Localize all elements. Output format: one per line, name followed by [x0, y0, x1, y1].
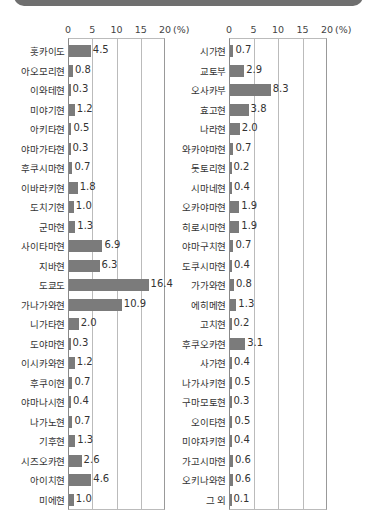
bar-row: 도쿠시마현0.4 — [230, 256, 326, 276]
bar-row: 에히메현1.3 — [230, 295, 326, 315]
category-label: 도쿄도 — [39, 278, 65, 292]
value-label: 4.5 — [91, 44, 109, 55]
value-label: 0.3 — [71, 337, 89, 348]
plot-area: 홋카이도4.5아오모리현0.8이와테현0.3미야기현1.2아키타현0.5야마가타… — [68, 38, 165, 510]
bar-row: 돗토리현0.2 — [230, 158, 326, 178]
value-label: 1.2 — [75, 356, 93, 367]
value-label: 10.9 — [122, 298, 146, 309]
value-label: 2.9 — [244, 64, 262, 75]
category-label: 사이타마현 — [21, 239, 65, 253]
unit-label: (%) — [335, 24, 351, 35]
category-label: 미야자키현 — [182, 434, 226, 448]
category-label: 가가와현 — [191, 278, 226, 292]
bar-row: 이와테현0.3 — [69, 80, 164, 100]
category-label: 오키나와현 — [182, 473, 226, 487]
plot-area: 시가현0.7교토부2.9오사카부8.3효고현3.8나라현2.0와카야마현0.7돗… — [229, 38, 327, 510]
category-label: 돗토리현 — [191, 161, 226, 175]
category-label: 이바라키현 — [21, 181, 65, 195]
bar-row: 가나가와현10.9 — [69, 295, 164, 315]
bar-row: 구마모토현0.3 — [230, 392, 326, 412]
value-label: 0.7 — [72, 376, 90, 387]
header-bar — [14, 0, 363, 6]
category-label: 니가타현 — [30, 317, 65, 331]
value-label: 1.9 — [239, 220, 257, 231]
category-label: 야마가타현 — [21, 142, 65, 156]
bar-row: 히로시마현1.9 — [230, 217, 326, 237]
value-label: 1.3 — [236, 298, 254, 309]
bar — [69, 182, 78, 194]
category-label: 나가노현 — [30, 415, 65, 429]
value-label: 1.8 — [78, 181, 96, 192]
bar-row: 홋카이도4.5 — [69, 41, 164, 61]
value-label: 16.4 — [149, 278, 173, 289]
bar-row: 사가현0.4 — [230, 353, 326, 373]
category-label: 이시카와현 — [21, 356, 65, 370]
x-tick-label: 5 — [250, 24, 256, 35]
bar-row: 그 외0.1 — [230, 490, 326, 510]
value-label: 0.7 — [233, 44, 251, 55]
value-label: 1.9 — [239, 200, 257, 211]
bar-row: 후쿠오카현3.1 — [230, 334, 326, 354]
bar-row: 도야마현0.3 — [69, 334, 164, 354]
x-tick-label: 20 — [159, 24, 171, 35]
category-label: 지바현 — [39, 259, 65, 273]
category-label: 후쿠오카현 — [182, 337, 226, 351]
bar — [230, 123, 240, 135]
bar-row: 오사카부8.3 — [230, 80, 326, 100]
category-label: 교토부 — [200, 64, 226, 78]
bar-row: 미야자키현0.4 — [230, 431, 326, 451]
value-label: 0.6 — [233, 454, 251, 465]
value-label: 0.3 — [232, 395, 250, 406]
bar-row: 시마네현0.4 — [230, 178, 326, 198]
bar-row: 오키나와현0.6 — [230, 470, 326, 490]
value-label: 0.5 — [71, 122, 89, 133]
category-label: 아키타현 — [30, 122, 65, 136]
bar-row: 시가현0.7 — [230, 41, 326, 61]
bar-row: 야마가타현0.3 — [69, 139, 164, 159]
category-label: 홋카이도 — [30, 44, 65, 58]
bar-row: 가고시마현0.6 — [230, 451, 326, 471]
bar-row: 와카야마현0.7 — [230, 139, 326, 159]
bar — [230, 65, 244, 77]
category-label: 가나가와현 — [21, 298, 65, 312]
value-label: 0.4 — [71, 395, 89, 406]
category-label: 구마모토현 — [182, 395, 226, 409]
value-label: 1.0 — [74, 200, 92, 211]
category-label: 사가현 — [200, 356, 226, 370]
bar-row: 지바현6.3 — [69, 256, 164, 276]
value-label: 0.6 — [233, 473, 251, 484]
bar-row: 나가사키현0.5 — [230, 373, 326, 393]
value-label: 2.0 — [79, 317, 97, 328]
bar — [230, 201, 239, 213]
bar-row: 미야기현1.2 — [69, 100, 164, 120]
category-label: 오이타현 — [191, 415, 226, 429]
bar — [69, 318, 79, 330]
category-label: 효고현 — [200, 103, 226, 117]
bar-row: 사이타마현6.9 — [69, 236, 164, 256]
category-label: 그 외 — [206, 493, 226, 507]
x-tick-label: 15 — [296, 24, 308, 35]
bar — [230, 84, 271, 96]
value-label: 0.5 — [232, 415, 250, 426]
category-label: 미에현 — [39, 493, 65, 507]
bar-row: 나라현2.0 — [230, 119, 326, 139]
value-label: 0.2 — [232, 161, 250, 172]
category-label: 시마네현 — [191, 181, 226, 195]
value-label: 0.5 — [232, 376, 250, 387]
category-label: 도치기현 — [30, 200, 65, 214]
category-label: 와카야마현 — [182, 142, 226, 156]
value-label: 1.3 — [75, 220, 93, 231]
value-label: 0.4 — [232, 259, 250, 270]
category-label: 고치현 — [200, 317, 226, 331]
bar-row: 이시카와현1.2 — [69, 353, 164, 373]
category-label: 아오모리현 — [21, 64, 65, 78]
bar — [69, 299, 122, 311]
value-label: 0.7 — [72, 415, 90, 426]
x-tick-label: 0 — [65, 24, 71, 35]
value-label: 1.3 — [75, 434, 93, 445]
bar-row: 야마구치현0.7 — [230, 236, 326, 256]
bar-row: 효고현3.8 — [230, 100, 326, 120]
value-label: 0.7 — [72, 161, 90, 172]
category-label: 나라현 — [200, 122, 226, 136]
bar-row: 가가와현0.8 — [230, 275, 326, 295]
